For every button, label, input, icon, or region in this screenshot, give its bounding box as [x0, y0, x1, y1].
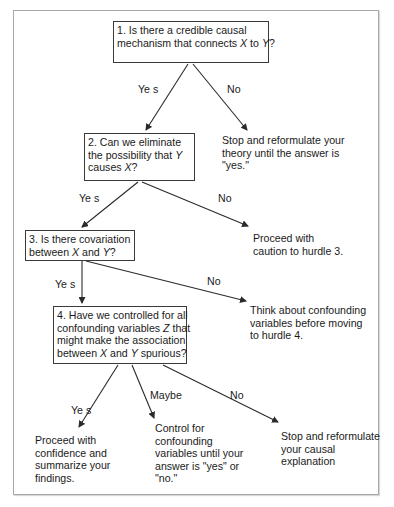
outcome-line: variables until your — [155, 447, 243, 460]
question-box-3: 3. Is there covariation between X and Y? — [25, 230, 135, 261]
outcome-line: your causal — [281, 443, 380, 456]
outcome-line: Think about confounding — [250, 304, 366, 317]
outcome-line: confidence and — [35, 447, 110, 460]
outcome-line: confounding — [155, 435, 243, 448]
outcome-line: findings. — [35, 472, 110, 485]
q1-line-2: mechanism that connects X to Y? — [117, 37, 265, 50]
q2-line-3: causes X? — [88, 161, 191, 174]
edge-label-q1-no: No — [227, 83, 241, 95]
question-box-4: 4. Have we controlled for all confoundin… — [53, 306, 187, 364]
q4-line-1: 4. Have we controlled for all — [57, 309, 183, 322]
outcome-q2-no: Proceed with caution to hurdle 3. — [253, 232, 343, 257]
outcome-q3-no: Think about confounding variables before… — [250, 304, 366, 342]
outcome-q1-no: Stop and reformulate your theory until t… — [222, 134, 345, 172]
question-box-2: 2. Can we eliminate the possibility that… — [84, 133, 195, 181]
q3-line-1: 3. Is there covariation — [29, 233, 131, 246]
outcome-line: explanation — [281, 455, 380, 468]
outcome-q4-yes: Proceed with confidence and summarize yo… — [35, 434, 110, 484]
outcome-line: to hurdle 4. — [250, 329, 366, 342]
q3-line-2: between X and Y? — [29, 246, 131, 259]
q4-line-4: between X and Y spurious? — [57, 347, 183, 360]
edge-label-q1-yes: Ye s — [138, 83, 158, 95]
edge-label-q4-no: No — [230, 389, 244, 401]
outcome-line: answer is "yes" or — [155, 460, 243, 473]
outcome-line: Stop and reformulate — [281, 430, 380, 443]
q2-line-1: 2. Can we eliminate — [88, 136, 191, 149]
outcome-line: variables before moving — [250, 317, 366, 330]
outcome-line: "yes." — [222, 159, 345, 172]
outcome-line: "no." — [155, 472, 243, 485]
outcome-line: Stop and reformulate your — [222, 134, 345, 147]
outcome-line: Proceed with — [35, 434, 110, 447]
question-box-1: 1. Is there a credible causal mechanism … — [113, 21, 269, 63]
q4-line-3: might make the association — [57, 334, 183, 347]
outcome-line: Control for — [155, 422, 243, 435]
outcome-line: summarize your — [35, 459, 110, 472]
edge-label-q3-yes: Ye s — [55, 278, 75, 290]
q1-line-1: 1. Is there a credible causal — [117, 24, 265, 37]
edge-label-q4-maybe: Maybe — [150, 389, 182, 401]
outcome-q4-no: Stop and reformulate your causal explana… — [281, 430, 380, 468]
edge-label-q4-yes: Ye s — [71, 404, 91, 416]
q2-line-2: the possibility that Y — [88, 149, 191, 162]
outcome-line: caution to hurdle 3. — [253, 245, 343, 258]
edge-label-q2-yes: Ye s — [79, 192, 99, 204]
outcome-line: theory until the answer is — [222, 147, 345, 160]
outcome-q4-maybe: Control for confounding variables until … — [155, 422, 243, 485]
edge-label-q2-no: No — [218, 192, 232, 204]
edge-label-q3-no: No — [207, 275, 221, 287]
outcome-line: Proceed with — [253, 232, 343, 245]
q4-line-2: confounding variables Z that — [57, 322, 183, 335]
